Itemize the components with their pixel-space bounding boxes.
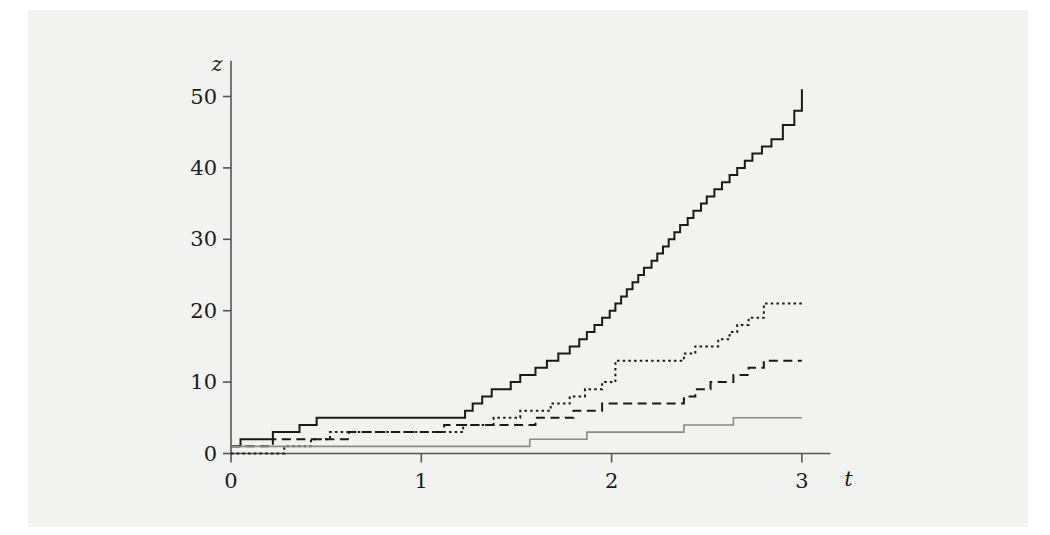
y-tick-label: 30	[190, 227, 217, 251]
y-tick-label: 20	[190, 299, 217, 323]
series-path-3	[231, 361, 802, 447]
y-tick-label: 0	[204, 442, 217, 466]
y-tick-label: 40	[190, 156, 217, 180]
y-axis-title: z	[210, 52, 223, 76]
step-plot: 010203040500123zt	[0, 0, 1050, 535]
x-tick-label: 3	[795, 469, 808, 493]
x-tick-label: 0	[224, 469, 237, 493]
y-tick-label: 50	[190, 85, 217, 109]
axis-labels: 010203040500123zt	[190, 52, 853, 493]
series-path-1	[231, 89, 802, 446]
x-axis-title: t	[844, 467, 853, 491]
figure-canvas: 010203040500123zt	[0, 0, 1050, 535]
x-tick-label: 1	[415, 469, 428, 493]
x-tick-label: 2	[605, 469, 618, 493]
series-container	[231, 89, 802, 453]
series-path-2	[231, 304, 802, 454]
axes	[223, 61, 830, 463]
y-tick-label: 10	[190, 370, 217, 394]
